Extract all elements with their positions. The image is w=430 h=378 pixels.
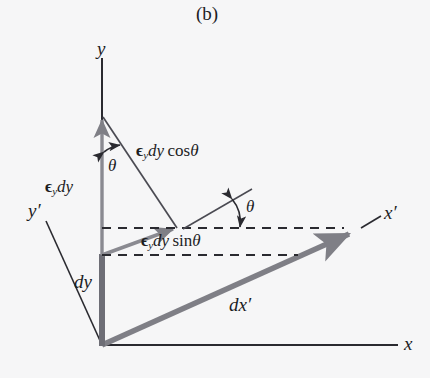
cos-function: cos — [168, 141, 191, 160]
theta-arc-top — [104, 145, 120, 152]
figure-caption: (b) — [196, 4, 218, 23]
y-axis-label: y — [97, 39, 105, 58]
x-prime-leader-line — [361, 216, 381, 228]
differential-dy: dy — [148, 141, 164, 160]
eps-dy-cos-label: ϵydy cosθ — [136, 142, 199, 161]
figure-panel: (b) y x y′ x′ θ θ ϵydy ϵydy cosθ ϵydy si… — [0, 0, 430, 378]
eps-dy-sin-label: ϵydy sinθ — [141, 232, 201, 251]
theta-arc-right — [232, 199, 240, 227]
x-prime-axis-label: x′ — [384, 203, 397, 222]
differential-dy: dy — [153, 231, 169, 250]
theta-reference-line — [183, 189, 252, 229]
theta-symbol: θ — [190, 141, 198, 160]
x-axis-label: x — [404, 334, 412, 353]
theta-label-right: θ — [246, 198, 254, 215]
x-prime-axis-arrow — [102, 234, 349, 345]
eps-dy-label: ϵydy — [45, 178, 73, 197]
y-prime-axis-label: y′ — [28, 201, 41, 220]
dx-prime-label: dx′ — [229, 295, 251, 314]
differential-dy: dy — [57, 177, 73, 196]
dy-label: dy — [74, 272, 92, 291]
theta-symbol: θ — [192, 231, 200, 250]
theta-label-top: θ — [108, 157, 116, 174]
sin-function: sin — [173, 231, 193, 250]
